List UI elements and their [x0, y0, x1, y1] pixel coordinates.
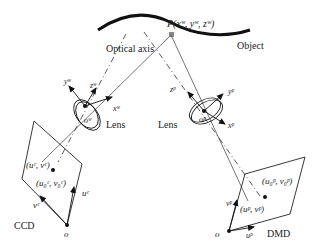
right-x-axis [204, 111, 225, 124]
left-lens-label: Lens [106, 119, 126, 130]
object-label: Object [237, 40, 264, 51]
right-y-label: yᵖ [227, 87, 235, 96]
left-x-axis [85, 97, 112, 106]
optical-axis-right [144, 32, 260, 196]
dmd-principal-label: (u₀ᵖ, v₀ᵖ) [262, 176, 292, 186]
left-y-axis [69, 86, 85, 106]
ray-right-solid [171, 35, 248, 201]
dmd-image-point-label: (uᵖ, vᵖ) [240, 204, 264, 214]
dmd-origin-dot [227, 229, 231, 233]
dmd-v-label: vᵖ [226, 199, 233, 208]
optical-axis-label: Optical axis [106, 43, 154, 54]
ccd-image-point-label: (uᶜ, vᶜ) [26, 160, 50, 170]
ccd-u-label: uᶜ [82, 188, 90, 198]
ccd-u-axis [67, 187, 74, 225]
right-lens-label: Lens [158, 119, 178, 130]
dmd-principal-dot [263, 195, 267, 199]
left-x-label: xʷ [112, 104, 121, 113]
dmd-label: DMD [267, 228, 290, 239]
point-p-label: P(xʷ, yʷ, zʷ) [166, 18, 215, 30]
dmd-plane [229, 157, 305, 231]
right-x-label: xᵖ [227, 121, 235, 130]
left-z-label: zʷ [89, 81, 97, 90]
left-origin-label: oʷ [84, 116, 92, 125]
ccd-v-axis [40, 196, 67, 225]
dmd-u-label: uᵖ [246, 231, 253, 240]
ccd-label: CCD [14, 220, 35, 231]
dmd-origin-label: o [215, 229, 220, 239]
left-y-label: yʷ [63, 77, 72, 86]
ccd-origin-label: o [64, 229, 69, 239]
right-z-label: zᵖ [169, 85, 176, 94]
ccd-principal-label: (u₀ᶜ, v₀ᶜ) [36, 178, 66, 188]
ccd-origin-dot [65, 223, 69, 227]
right-lens [185, 93, 226, 129]
right-origin-label: oᵖ [199, 115, 206, 124]
projector-camera-diagram: P(xʷ, yʷ, zʷ) Object Optical axis yʷ zʷ … [0, 0, 321, 251]
ccd-v-label: vᶜ [33, 200, 40, 210]
ccd-principal-dot [51, 168, 55, 172]
